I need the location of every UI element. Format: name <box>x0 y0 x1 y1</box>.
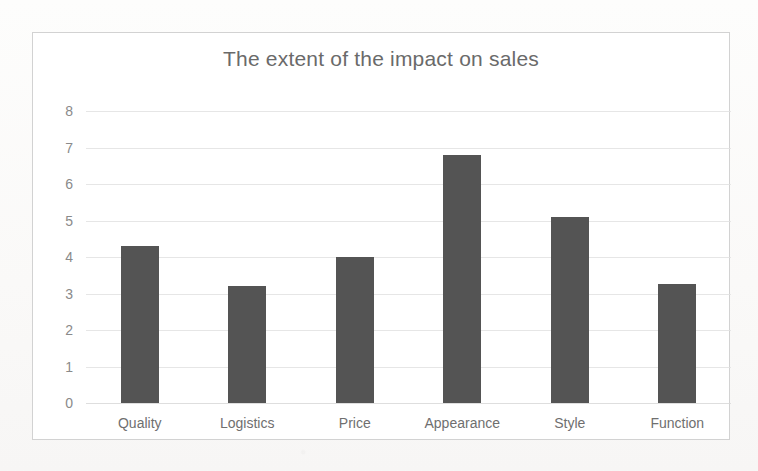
x-axis-label-function: Function <box>650 415 704 431</box>
chart-frame: The extent of the impact on sales 012345… <box>32 32 730 440</box>
y-axis-tick-label: 5 <box>65 213 73 229</box>
gridline-y-4 <box>86 257 731 258</box>
x-axis-label-logistics: Logistics <box>220 415 274 431</box>
gridline-y-2 <box>86 330 731 331</box>
gridline-y-1 <box>86 367 731 368</box>
x-axis-label-quality: Quality <box>118 415 162 431</box>
bar-style <box>551 217 589 403</box>
bar-logistics <box>228 286 266 403</box>
y-axis-tick-label: 0 <box>65 395 73 411</box>
bar-quality <box>121 246 159 403</box>
x-axis-label-style: Style <box>554 415 585 431</box>
bar-appearance <box>443 155 481 403</box>
x-axis-label-appearance: Appearance <box>424 415 500 431</box>
chart-title: The extent of the impact on sales <box>33 47 729 71</box>
plot-area: 012345678QualityLogisticsPriceAppearance… <box>86 111 731 403</box>
gridline-y-8 <box>86 111 731 112</box>
y-axis-tick-label: 8 <box>65 103 73 119</box>
y-axis-tick-label: 7 <box>65 140 73 156</box>
y-axis-tick-label: 1 <box>65 359 73 375</box>
y-axis-tick-label: 2 <box>65 322 73 338</box>
gridline-y-3 <box>86 294 731 295</box>
x-axis-label-price: Price <box>339 415 371 431</box>
y-axis-tick-label: 4 <box>65 249 73 265</box>
bar-function <box>658 284 696 403</box>
y-axis-tick-label: 6 <box>65 176 73 192</box>
gridline-y-6 <box>86 184 731 185</box>
y-axis-tick-label: 3 <box>65 286 73 302</box>
gridline-y-5 <box>86 221 731 222</box>
gridline-y-0 <box>86 403 731 404</box>
gridline-y-7 <box>86 148 731 149</box>
bar-price <box>336 257 374 403</box>
